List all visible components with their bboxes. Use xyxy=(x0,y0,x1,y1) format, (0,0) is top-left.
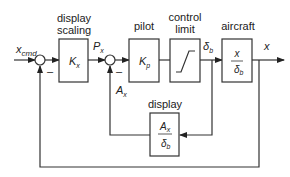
minus-sign-1: – xyxy=(47,65,54,77)
aircraft-numerator: x xyxy=(234,48,241,59)
ax-label: Ax xyxy=(115,84,127,98)
display-scaling-title-2: scaling xyxy=(57,24,91,36)
display-scaling-title-1: display xyxy=(57,12,92,24)
pilot-title: pilot xyxy=(134,20,154,32)
control-limit-title-2: limit xyxy=(175,23,195,35)
display-title: display xyxy=(148,98,183,110)
display-block xyxy=(150,113,179,156)
aircraft-title: aircraft xyxy=(221,20,255,32)
minus-sign-2: – xyxy=(116,65,123,77)
control-limit-title-1: control xyxy=(168,11,201,23)
block-diagram: display scaling pilot control limit airc… xyxy=(0,0,290,177)
input-label: xcmd xyxy=(15,43,37,58)
aircraft-block xyxy=(222,39,252,82)
px-label: Px xyxy=(93,40,104,54)
delta-b-label: δb xyxy=(203,40,213,54)
summing-junction-2 xyxy=(105,55,115,65)
output-label: x xyxy=(263,40,270,52)
